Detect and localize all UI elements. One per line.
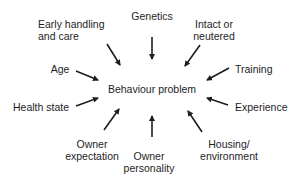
factor-label-housing-environment: Housing/environment (200, 138, 258, 162)
arrow-training (207, 68, 229, 80)
center-label-behaviour-problem: Behaviour problem (108, 83, 196, 95)
factor-label-line: expectation (65, 150, 119, 162)
arrow-intact-neutered (185, 45, 200, 66)
factor-label-age: Age (51, 63, 70, 75)
factor-label-line: Experience (235, 101, 288, 113)
factor-label-line: Age (51, 63, 70, 75)
factor-label-genetics: Genetics (131, 10, 172, 22)
arrow-housing-environment (188, 111, 202, 132)
factor-label-line: Genetics (131, 10, 172, 22)
factor-label-health-state: Health state (13, 101, 69, 113)
factor-label-line: Intact or (193, 18, 234, 30)
arrow-health-state (76, 98, 98, 106)
factor-label-owner-personality: Ownerpersonality (124, 150, 175, 174)
arrow-experience (207, 98, 228, 105)
factor-label-owner-expectation: Ownerexpectation (65, 138, 119, 162)
factor-label-line: neutered (193, 30, 234, 42)
factor-label-early-handling: Early handlingand care (38, 18, 105, 42)
arrow-owner-expectation (104, 109, 119, 130)
factor-label-line: Owner (65, 138, 119, 150)
factor-label-line: Health state (13, 101, 69, 113)
factor-label-line: Housing/ (200, 138, 258, 150)
factor-label-line: Training (235, 63, 273, 75)
factor-label-intact-neutered: Intact orneutered (193, 18, 234, 42)
factor-label-line: environment (200, 150, 258, 162)
factor-label-line: Early handling (38, 18, 105, 30)
factor-label-training: Training (235, 63, 273, 75)
arrow-early-handling (107, 44, 120, 65)
factor-label-experience: Experience (235, 101, 288, 113)
arrow-age (76, 71, 98, 80)
factor-label-line: and care (38, 30, 105, 42)
factor-label-line: Owner (124, 150, 175, 162)
factor-label-line: personality (124, 162, 175, 174)
